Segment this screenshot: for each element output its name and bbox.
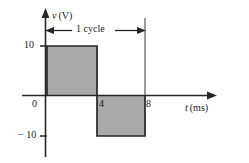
negative-half-cycle-block — [97, 95, 145, 136]
y-axis-arrowhead-icon — [42, 8, 50, 18]
y-tick-label-minus-10: − 10 — [18, 130, 36, 140]
x-axis-label-unit: (ms) — [190, 102, 208, 113]
x-axis-label: t(ms) — [185, 103, 208, 113]
y-axis-label-variable: v — [52, 10, 56, 21]
y-axis-label-unit: (V) — [58, 10, 72, 21]
y-tick-label-0: 0 — [32, 99, 37, 109]
square-wave-figure: v(V) t(ms) 1 cycle 10 0 − 10 4 8 — [0, 0, 249, 163]
y-axis-label: v(V) — [52, 11, 72, 21]
cycle-annotation-label: 1 cycle — [76, 24, 105, 34]
waveform-fill-group — [47, 46, 145, 136]
x-axis-arrowhead-icon — [207, 92, 217, 100]
x-tick-label-8: 8 — [146, 99, 151, 109]
x-axis-label-variable: t — [185, 102, 188, 113]
waveform-plot-svg — [0, 0, 249, 163]
cycle-arrowhead-left-icon — [45, 27, 54, 34]
positive-half-cycle-block — [47, 46, 97, 95]
x-tick-label-4: 4 — [99, 99, 104, 109]
y-tick-label-10: 10 — [24, 40, 34, 50]
